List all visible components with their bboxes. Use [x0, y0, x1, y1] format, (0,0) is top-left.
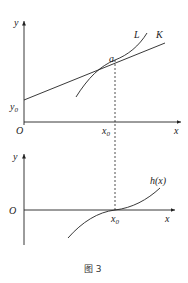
- curve-h-label: h(x): [150, 175, 167, 187]
- curve-L-label: L: [133, 29, 140, 40]
- y0-label: y0: [9, 101, 18, 114]
- top-x-axis-label: x: [173, 125, 179, 136]
- top-origin-label: O: [16, 125, 23, 136]
- top-x0-label: x0: [101, 125, 110, 138]
- point-a-label: a: [109, 53, 114, 64]
- top-y-axis-label: y: [13, 17, 19, 28]
- bottom-x0-label: x0: [110, 213, 119, 226]
- figure-caption: 图 3: [84, 264, 102, 274]
- bottom-origin-label: O: [9, 205, 16, 216]
- line-K: [24, 43, 165, 100]
- bottom-y-axis-label: y: [12, 151, 18, 162]
- line-K-label: K: [155, 29, 164, 40]
- bottom-graph: y x O x0 h(x): [9, 151, 175, 245]
- figure-3: y x O y0 x0 a L K y x O x0 h(x) 图 3: [0, 0, 188, 283]
- bottom-x-axis-label: x: [164, 213, 170, 224]
